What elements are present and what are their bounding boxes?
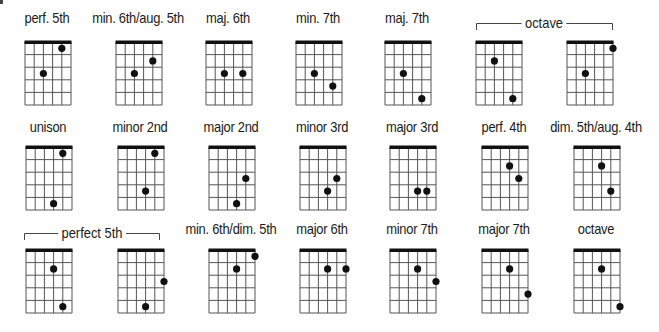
finger-dot xyxy=(506,162,513,169)
interval-label: major 3rd xyxy=(386,118,438,135)
interval-label: perf. 5th xyxy=(24,9,69,26)
nut-bar xyxy=(26,146,73,150)
nut-bar xyxy=(209,146,256,150)
fretboard-diagram xyxy=(24,41,70,104)
finger-dot xyxy=(598,162,605,169)
finger-dot xyxy=(607,188,614,195)
interval-label: unison xyxy=(30,118,66,135)
finger-dot xyxy=(598,265,605,272)
finger-dot xyxy=(582,70,589,77)
finger-dot xyxy=(233,200,240,207)
nut-bar xyxy=(300,146,347,150)
nut-bar xyxy=(574,146,621,150)
interval-label: dim. 5th/aug. 4th xyxy=(550,118,642,135)
interval-label: maj. 7th xyxy=(385,9,429,26)
nut-bar xyxy=(476,41,523,45)
fretboard-diagram xyxy=(481,249,527,312)
finger-dot xyxy=(131,70,138,77)
finger-dot xyxy=(50,200,57,207)
interval-label: minor 3rd xyxy=(296,118,348,135)
finger-dot xyxy=(58,45,65,52)
finger-dot xyxy=(616,303,623,310)
finger-dot xyxy=(149,57,156,64)
fretboard-diagram xyxy=(208,146,254,209)
finger-dot xyxy=(432,278,439,285)
fretboard-diagram xyxy=(573,249,619,312)
finger-dot xyxy=(414,265,421,272)
nut-bar xyxy=(209,249,256,253)
finger-dot xyxy=(142,188,149,195)
finger-dot xyxy=(400,70,407,77)
nut-bar xyxy=(118,249,165,253)
interval-label: major 7th xyxy=(478,220,529,237)
nut-bar xyxy=(26,249,73,253)
fretboard-diagram xyxy=(25,146,71,209)
finger-dot xyxy=(142,303,149,310)
fretboard-diagram xyxy=(25,249,71,312)
finger-dot xyxy=(160,278,167,285)
finger-dot xyxy=(221,70,228,77)
nut-bar xyxy=(25,41,72,45)
fretboard-diagram xyxy=(481,146,527,209)
finger-dot xyxy=(59,303,66,310)
finger-dot xyxy=(233,265,240,272)
interval-label: maj. 6th xyxy=(206,9,250,26)
nut-bar xyxy=(574,249,621,253)
fretboard-diagram xyxy=(117,249,163,312)
interval-label: min. 7th xyxy=(296,9,340,26)
finger-dot xyxy=(324,265,331,272)
bracket-label: perfect 5th xyxy=(58,224,126,241)
finger-dot xyxy=(40,70,47,77)
fretboard-diagram xyxy=(299,146,345,209)
finger-dot xyxy=(333,175,340,182)
nut-bar xyxy=(390,249,437,253)
interval-label: min. 6th/aug. 5th xyxy=(92,9,184,26)
finger-dot xyxy=(423,188,430,195)
finger-dot xyxy=(515,175,522,182)
fretboard-diagram xyxy=(389,249,435,312)
finger-dot xyxy=(609,45,616,52)
finger-dot xyxy=(342,265,349,272)
finger-dot xyxy=(50,265,57,272)
fretboard-diagram xyxy=(389,146,435,209)
corner-mark xyxy=(0,0,3,4)
nut-bar xyxy=(116,41,163,45)
finger-dot xyxy=(311,70,318,77)
nut-bar xyxy=(385,41,432,45)
interval-label: major 6th xyxy=(296,220,347,237)
finger-dot xyxy=(242,175,249,182)
nut-bar xyxy=(206,41,253,45)
fretboard-diagram xyxy=(475,41,521,104)
finger-dot xyxy=(151,150,158,157)
fretboard-diagram xyxy=(205,41,251,104)
nut-bar xyxy=(300,249,347,253)
nut-bar xyxy=(482,249,529,253)
bracket-label: octave xyxy=(522,14,567,31)
fretboard-diagram xyxy=(295,41,341,104)
interval-label: octave xyxy=(578,220,614,237)
nut-bar xyxy=(390,146,437,150)
fretboard-diagram xyxy=(117,146,163,209)
interval-label: major 2nd xyxy=(203,118,258,135)
finger-dot xyxy=(509,95,516,102)
fretboard-diagram xyxy=(208,249,254,312)
nut-bar xyxy=(296,41,343,45)
finger-dot xyxy=(324,188,331,195)
finger-dot xyxy=(59,150,66,157)
finger-dot xyxy=(329,83,336,90)
finger-dot xyxy=(251,253,258,260)
interval-label: minor 7th xyxy=(386,220,437,237)
fretboard-diagram xyxy=(299,249,345,312)
fretboard-diagram xyxy=(566,41,612,104)
finger-dot xyxy=(524,291,531,298)
finger-dot xyxy=(414,188,421,195)
nut-bar xyxy=(567,41,614,45)
finger-dot xyxy=(491,57,498,64)
nut-bar xyxy=(118,146,165,150)
finger-dot xyxy=(506,265,513,272)
fretboard-diagram xyxy=(384,41,430,104)
fretboard-diagram xyxy=(115,41,161,104)
interval-label: min. 6th/dim. 5th xyxy=(186,220,277,237)
fretboard-diagram xyxy=(573,146,619,209)
finger-dot xyxy=(418,95,425,102)
